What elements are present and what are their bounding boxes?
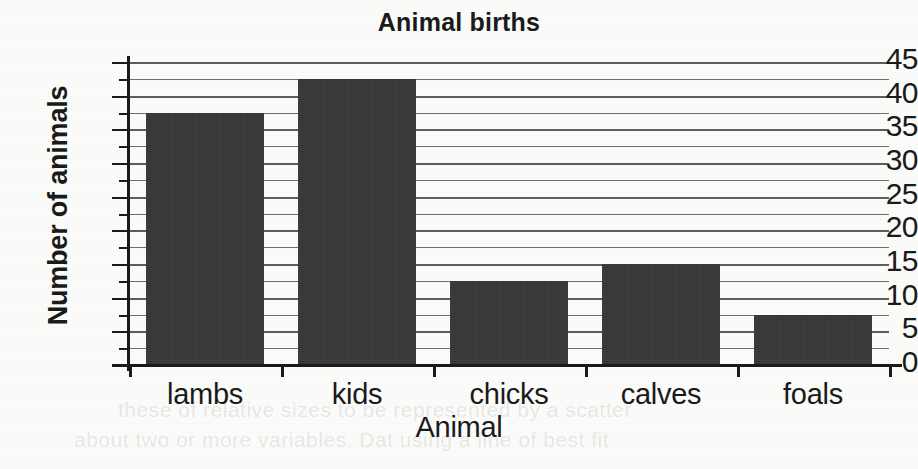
y-tick — [112, 230, 130, 232]
y-tick-label: 20 — [812, 210, 918, 244]
y-tick-label: 35 — [812, 109, 918, 143]
bar-chicks — [450, 281, 569, 365]
y-tick — [112, 163, 130, 165]
chart-page: these of relative sizes to be represente… — [0, 0, 918, 469]
y-tick — [112, 331, 130, 333]
y-tick — [119, 180, 130, 182]
x-tick-label-chicks: chicks — [433, 378, 585, 411]
bar-lambs — [146, 113, 265, 366]
plot-area — [129, 62, 889, 365]
y-tick — [119, 348, 130, 350]
gridline — [129, 96, 889, 98]
x-tick-label-foals: foals — [737, 378, 889, 411]
chart-title: Animal births — [0, 8, 918, 37]
y-tick — [119, 146, 130, 148]
y-tick — [119, 214, 130, 216]
y-tick — [112, 129, 130, 131]
y-tick — [112, 197, 130, 199]
x-tick — [433, 364, 436, 377]
y-tick — [112, 264, 130, 266]
x-tick — [281, 364, 284, 377]
y-tick — [119, 79, 130, 81]
x-tick — [889, 364, 892, 377]
y-tick-label: 5 — [812, 311, 918, 345]
y-tick-label: 45 — [812, 42, 918, 76]
bar-kids — [298, 79, 417, 365]
y-tick-label: 10 — [812, 278, 918, 312]
x-tick — [585, 364, 588, 377]
bar-calves — [602, 264, 721, 365]
y-tick-label: 0 — [812, 345, 918, 379]
y-tick — [119, 113, 130, 115]
y-tick — [119, 247, 130, 249]
y-tick — [112, 365, 130, 367]
x-axis-line — [112, 364, 902, 367]
x-tick-label-lambs: lambs — [129, 378, 281, 411]
gridline — [129, 79, 889, 80]
x-tick-label-calves: calves — [585, 378, 737, 411]
y-tick — [112, 298, 130, 300]
y-tick-label: 40 — [812, 76, 918, 110]
x-tick-label-kids: kids — [281, 378, 433, 411]
y-axis-title: Number of animals — [43, 56, 74, 356]
y-tick — [119, 281, 130, 283]
gridline — [129, 62, 889, 64]
y-tick — [119, 315, 130, 317]
x-tick — [737, 364, 740, 377]
y-tick-label: 30 — [812, 143, 918, 177]
y-tick — [112, 62, 130, 64]
y-tick-label: 25 — [812, 177, 918, 211]
y-tick — [112, 96, 130, 98]
y-tick-label: 15 — [812, 244, 918, 278]
x-tick — [129, 364, 132, 377]
x-axis-title: Animal — [0, 411, 918, 444]
